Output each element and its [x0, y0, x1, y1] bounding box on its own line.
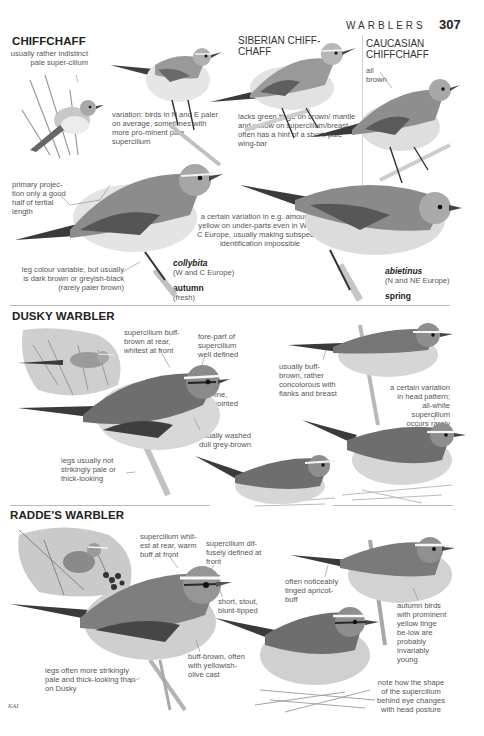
raddes-warbler-leader-lines: [0, 0, 484, 736]
